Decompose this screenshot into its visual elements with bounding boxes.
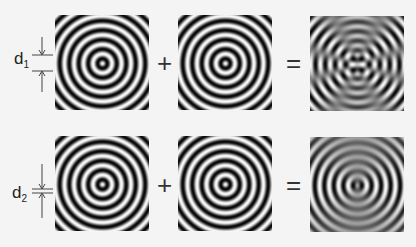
plus-sign-row2: + bbox=[157, 172, 172, 198]
plus-sign-row1: + bbox=[157, 50, 172, 76]
distance-label-d1: d1 bbox=[14, 49, 29, 70]
equals-sign-row1: = bbox=[286, 50, 301, 76]
ring-pattern-source-b-row2 bbox=[178, 136, 272, 231]
equals-sign-row2: = bbox=[286, 172, 301, 198]
interference-result-row2 bbox=[310, 137, 404, 232]
separation-marker-d2 bbox=[30, 162, 55, 222]
ring-pattern-source-a-row2 bbox=[55, 136, 149, 231]
ring-pattern-source-a-row1 bbox=[55, 15, 149, 110]
ring-pattern-source-b-row1 bbox=[178, 15, 272, 110]
interference-result-row1 bbox=[310, 16, 404, 111]
distance-label-d2: d2 bbox=[12, 183, 27, 204]
separation-marker-d1 bbox=[30, 35, 55, 95]
